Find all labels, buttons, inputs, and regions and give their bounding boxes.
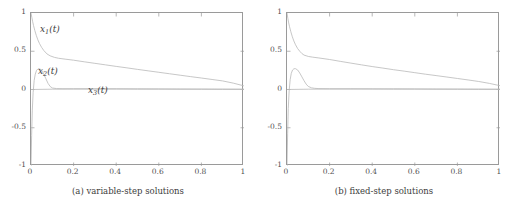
x-tick-label: 0.8 bbox=[441, 168, 471, 176]
curve-label-argument: (t) bbox=[97, 85, 108, 95]
plot-panel-b: 10.50-0.5-1 00.20.40.60.81 (b) fixed-ste… bbox=[256, 0, 512, 211]
panel-caption-a: (a) variable-step solutions bbox=[0, 186, 256, 197]
x-tick-label: 0 bbox=[15, 168, 45, 176]
x-tick-label: 1 bbox=[484, 168, 512, 176]
plot-axes-b bbox=[286, 12, 499, 165]
plot-curves-b bbox=[287, 13, 500, 166]
y-tick-label: 0 bbox=[256, 85, 282, 93]
curve-label-x3: x3(t) bbox=[88, 85, 108, 96]
y-tick-label: 0.5 bbox=[0, 46, 26, 54]
curve-label-x2: x2(t) bbox=[38, 66, 58, 77]
x-tick-label: 0.4 bbox=[356, 168, 386, 176]
curve-x2t bbox=[287, 69, 500, 166]
x-tick-label: 0.4 bbox=[100, 168, 130, 176]
y-tick-label: 0 bbox=[0, 85, 26, 93]
curve-x1t bbox=[31, 13, 244, 86]
panel-caption-b: (b) fixed-step solutions bbox=[256, 186, 512, 197]
curve-label-argument: (t) bbox=[47, 66, 58, 76]
plot-panel-a: 10.50-0.5-1 00.20.40.60.81 x1(t)x2(t)x3(… bbox=[0, 0, 256, 211]
plot-curves-a bbox=[31, 13, 244, 166]
curve-x2t bbox=[31, 69, 244, 166]
figure-container: 10.50-0.5-1 00.20.40.60.81 x1(t)x2(t)x3(… bbox=[0, 0, 512, 211]
curve-label-subscript: 1 bbox=[45, 28, 49, 36]
curve-x1t bbox=[287, 13, 500, 86]
x-tick-label: 0 bbox=[271, 168, 301, 176]
x-tick-label: 0.6 bbox=[143, 168, 173, 176]
x-tick-label: 0.8 bbox=[185, 168, 215, 176]
x-tick-label: 0.6 bbox=[399, 168, 429, 176]
y-tick-label: -0.5 bbox=[256, 123, 282, 131]
y-tick-label: -0.5 bbox=[0, 123, 26, 131]
x-tick-label: 0.2 bbox=[314, 168, 344, 176]
y-tick-label: 0.5 bbox=[256, 46, 282, 54]
curve-label-argument: (t) bbox=[49, 24, 60, 34]
y-tick-label: 1 bbox=[0, 8, 26, 16]
y-tick-label: 1 bbox=[256, 8, 282, 16]
curve-label-x1: x1(t) bbox=[40, 24, 60, 35]
curve-label-subscript: 3 bbox=[93, 89, 97, 97]
curve-label-subscript: 2 bbox=[43, 70, 47, 78]
x-tick-label: 1 bbox=[228, 168, 258, 176]
plot-axes-a bbox=[30, 12, 243, 165]
x-tick-label: 0.2 bbox=[58, 168, 88, 176]
